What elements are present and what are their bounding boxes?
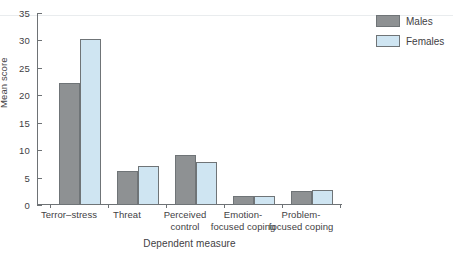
y-tick-label: 15 [19, 117, 30, 128]
bar-females [138, 166, 159, 205]
y-tick-mark [37, 205, 42, 206]
bar-males [291, 191, 312, 205]
y-tick-mark [37, 40, 42, 41]
y-tick-mark [37, 123, 42, 124]
bar-males [175, 155, 196, 205]
bar-males [117, 171, 138, 205]
legend-swatch-icon [376, 35, 400, 47]
bar-females [196, 162, 217, 205]
x-tick-5 [340, 204, 341, 208]
category-label-line1: Problem- [254, 209, 348, 221]
y-tick-label: 20 [19, 90, 30, 101]
bar-males [59, 83, 80, 205]
x-tick-2 [166, 204, 167, 208]
x-category-label-problem-focused-coping: Problem- focused coping [254, 209, 348, 232]
x-axis-title: Dependent measure [37, 238, 342, 249]
y-axis-title: Mean score [0, 57, 9, 108]
legend-label: Females [406, 36, 444, 47]
y-tick-label: 35 [19, 8, 30, 19]
y-tick-label: 5 [25, 172, 30, 183]
y-tick-mark [37, 178, 42, 179]
category-label-line2: focused coping [254, 221, 348, 233]
x-tick-0 [50, 204, 51, 208]
y-tick-mark [37, 68, 42, 69]
legend-swatch-icon [376, 15, 400, 27]
legend-item-males: Males [376, 11, 453, 31]
x-tick-1 [108, 204, 109, 208]
x-tick-4 [282, 204, 283, 208]
chart-legend: Males Females [376, 11, 453, 51]
bar-males [233, 196, 254, 205]
y-tick-mark [37, 150, 42, 151]
y-tick-mark [37, 13, 42, 14]
bar-females [312, 190, 333, 205]
plot-area: 0 5 10 15 20 25 30 35 [37, 13, 342, 205]
y-tick-mark [37, 95, 42, 96]
y-tick-label: 30 [19, 35, 30, 46]
bar-chart-figure: Mean score Dependent measure 0 5 10 15 2… [0, 0, 453, 263]
x-tick-3 [224, 204, 225, 208]
bar-females [80, 39, 101, 205]
y-tick-label: 10 [19, 145, 30, 156]
y-tick-label: 25 [19, 62, 30, 73]
bar-females [254, 196, 275, 205]
legend-label: Males [406, 16, 433, 27]
legend-item-females: Females [376, 31, 453, 51]
